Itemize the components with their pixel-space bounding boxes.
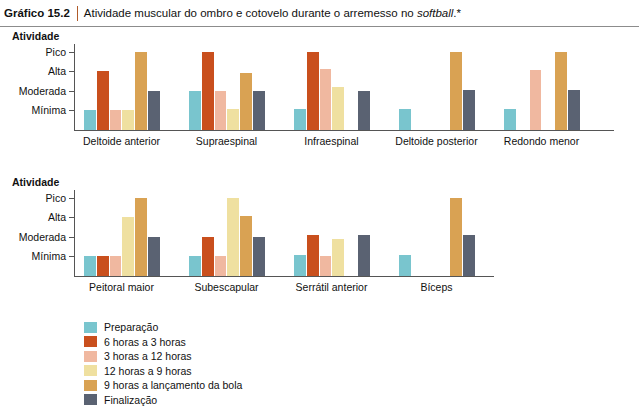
legend-label: 6 horas a 3 horas [104,336,186,348]
x-axis-category-label: Supraespinal [196,135,257,147]
legend-item: Finalização [84,393,242,408]
bar [294,255,306,277]
bar [135,52,147,130]
bar [320,69,332,130]
bar [240,73,252,130]
bar [358,91,370,130]
legend-swatch [84,336,97,347]
legend-label: 3 horas a 12 horas [104,350,192,362]
x-axis-category-label: Subescapular [194,281,258,293]
bar [97,71,109,130]
bar [189,91,201,130]
legend-item: 12 horas a 9 horas [84,364,242,379]
bar [450,198,462,276]
x-axis-category-label: Redondo menor [504,135,579,147]
bar [202,52,214,130]
bar [122,217,134,276]
legend-label: Preparação [104,321,158,333]
bar [253,237,265,276]
bar [450,52,462,130]
y-axis-tick [69,52,74,53]
x-axis-category-label: Serrátil anterior [296,281,368,293]
bar [307,235,319,276]
bar-group [294,44,371,130]
bar [122,110,134,130]
legend-swatch [84,380,97,391]
y-axis-tick [69,217,74,218]
bar [307,52,319,130]
y-axis-tick-label: Alta [48,65,66,77]
bar [240,216,252,276]
bar [332,239,344,276]
legend-swatch [84,394,97,405]
bar [463,235,475,276]
y-axis-tick-label: Moderada [19,85,66,97]
figure-caption: Atividade muscular do ombro e cotovelo d… [84,7,461,19]
y-axis-line [74,44,75,130]
caption-italic: softball [417,7,453,19]
bar-group [84,44,161,130]
bar [97,256,109,276]
bar [294,109,306,131]
bar [568,90,580,130]
figure-header: Gráfico 15.2 Atividade muscular do ombro… [0,0,639,27]
bar [110,110,122,130]
legend-label: Finalização [104,394,157,406]
chart1-y-axis-title: Atividade [12,30,59,42]
x-axis-category-label: Deltoide anterior [83,135,160,147]
bar-group [189,44,266,130]
bar [148,91,160,130]
bar-group [504,44,581,130]
chart1-plot-area: MínimaModeradaAltaPicoDeltoide anteriorS… [12,44,627,132]
bar [399,109,411,130]
bar [320,256,332,276]
x-axis-category-label: Bíceps [420,281,452,293]
y-axis-tick [69,237,74,238]
bar-group [294,190,371,276]
bar [135,198,147,276]
y-axis-tick [69,256,74,257]
caption-suffix: .* [453,7,461,19]
legend-item: 3 horas a 12 horas [84,349,242,364]
bar-group [399,190,476,276]
header-divider [77,6,78,21]
figure-number: Gráfico 15.2 [0,7,70,19]
bar [189,256,201,276]
chart2-plot-area: MínimaModeradaAltaPicoPeitoral maiorSube… [12,190,627,278]
bar [530,70,542,130]
bar [555,52,567,130]
caption-text: Atividade muscular do ombro e cotovelo d… [84,7,417,19]
y-axis-tick [69,71,74,72]
bar [399,255,411,277]
legend-swatch [84,322,97,333]
y-axis-tick-label: Pico [46,46,66,58]
bar [227,198,239,276]
y-axis-tick-label: Mínima [32,250,66,262]
legend-swatch [84,365,97,376]
bar [504,109,516,131]
y-axis-tick [69,198,74,199]
x-axis-line [74,130,614,131]
bar-group [84,190,161,276]
legend-item: 9 horas a lançamento da bola [84,378,242,393]
y-axis-tick-label: Alta [48,211,66,223]
bar [463,90,475,130]
x-axis-category-label: Infraespinal [304,135,358,147]
bar [202,237,214,276]
bar-group [189,190,266,276]
legend-label: 9 horas a lançamento da bola [104,379,242,391]
bar [84,256,96,276]
y-axis-tick-label: Moderada [19,231,66,243]
bar [215,256,227,276]
x-axis-category-label: Deltoide posterior [395,135,477,147]
bar [332,87,344,130]
bar-group [399,44,476,130]
bar [148,237,160,276]
y-axis-tick-label: Mínima [32,104,66,116]
bar [227,109,239,130]
bar [358,235,370,276]
bar [110,256,122,276]
y-axis-tick [69,91,74,92]
legend-label: 12 horas a 9 horas [104,365,192,377]
chart-legend: Preparação6 horas a 3 horas3 horas a 12 … [84,320,242,407]
